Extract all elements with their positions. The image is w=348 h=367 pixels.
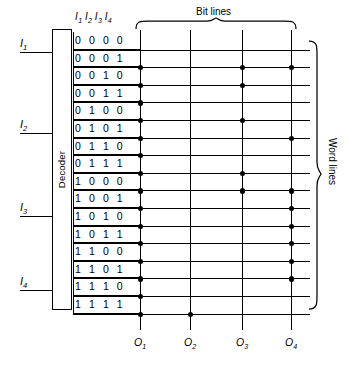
junction-dot <box>138 188 143 193</box>
junction-dot <box>289 65 294 70</box>
word-line <box>73 85 310 86</box>
word-lines-brace <box>308 40 322 310</box>
junction-dot <box>240 83 245 88</box>
junction-dot <box>289 188 294 193</box>
junction-dot <box>240 65 245 70</box>
decoder-input-label-1: I1 <box>20 37 27 52</box>
word-code-row: 0 0 0 1 <box>73 50 140 68</box>
output-label-3: O3 <box>236 336 248 350</box>
word-code-row: 1 0 0 1 <box>73 190 140 208</box>
junction-dot <box>138 312 143 317</box>
word-code-row: 0 1 1 0 <box>73 138 140 156</box>
junction-dot <box>138 153 143 158</box>
junction-dot <box>138 100 143 105</box>
word-line <box>73 278 310 279</box>
word-code-row: 0 0 0 0 <box>73 32 140 50</box>
junction-dot <box>138 206 143 211</box>
junction-dot <box>240 171 245 176</box>
word-line <box>73 67 310 68</box>
junction-dot <box>138 276 143 281</box>
junction-dot <box>188 312 193 317</box>
junction-dot <box>138 136 143 141</box>
word-code-value: 1 1 1 0 <box>75 279 125 294</box>
junction-dot <box>289 276 294 281</box>
bit-line-1 <box>140 30 141 330</box>
code-column-header: I1 I2 I3 I4 <box>75 11 112 24</box>
junction-dot <box>138 241 143 246</box>
decoder-input-label-3: I3 <box>20 201 27 216</box>
bit-lines-caption: Bit lines <box>196 6 231 17</box>
word-line <box>73 261 310 262</box>
word-code-value: 1 0 1 0 <box>75 209 125 224</box>
junction-dot <box>289 259 294 264</box>
decoder-label: Decoder <box>57 151 68 188</box>
word-code-value: 0 0 0 0 <box>75 33 125 48</box>
junction-dot <box>240 188 245 193</box>
word-line <box>73 226 310 227</box>
decoder-input-label-4: I4 <box>20 275 27 290</box>
word-code-row: 1 1 0 0 <box>73 243 140 261</box>
word-code-row: 1 0 1 0 <box>73 208 140 226</box>
word-line <box>73 190 310 191</box>
junction-dot <box>289 206 294 211</box>
word-line <box>73 155 310 156</box>
bit-line-2 <box>190 30 191 330</box>
decoder-block-label-wrap: Decoder <box>52 29 72 310</box>
word-code-row: 1 1 0 1 <box>73 261 140 279</box>
word-code-row: 0 1 0 0 <box>73 102 140 120</box>
word-code-row: 1 1 1 1 <box>73 296 140 314</box>
junction-dot <box>138 259 143 264</box>
word-code-row: 0 0 1 1 <box>73 85 140 103</box>
word-code-value: 1 1 0 0 <box>75 244 125 259</box>
output-label-4: O4 <box>285 336 297 350</box>
word-code-row: 0 0 1 0 <box>73 67 140 85</box>
word-code-value: 0 0 1 1 <box>75 86 125 101</box>
bit-line-4 <box>291 30 292 330</box>
word-code-row: 1 1 1 0 <box>73 278 140 296</box>
junction-dot <box>138 294 143 299</box>
word-line <box>73 208 310 209</box>
output-label-2: O2 <box>184 336 196 350</box>
word-code-value: 1 1 0 1 <box>75 262 125 277</box>
word-code-row: 1 0 0 0 <box>73 173 140 191</box>
rom-matrix-diagram: Decoder I1I2I3I4 I1 I2 I3 I4 0 0 0 00 0 … <box>0 0 348 367</box>
word-code-row: 0 1 1 1 <box>73 155 140 173</box>
junction-dot <box>138 83 143 88</box>
word-line <box>73 296 310 297</box>
word-code-row: 0 1 0 1 <box>73 120 140 138</box>
word-line <box>73 243 310 244</box>
word-code-value: 0 1 0 1 <box>75 121 125 136</box>
word-lines-caption: Word lines <box>327 138 338 185</box>
junction-dot <box>138 65 143 70</box>
junction-dot <box>289 136 294 141</box>
word-code-value: 1 0 0 0 <box>75 174 125 189</box>
word-line <box>73 120 310 121</box>
word-line <box>73 173 310 174</box>
word-code-value: 1 0 1 1 <box>75 227 125 242</box>
junction-dot <box>289 241 294 246</box>
word-code-value: 1 1 1 1 <box>75 297 125 312</box>
word-code-value: 0 0 1 0 <box>75 68 125 83</box>
word-code-value: 1 0 0 1 <box>75 191 125 206</box>
word-code-row: 1 0 1 1 <box>73 226 140 244</box>
bit-lines-brace <box>135 18 297 30</box>
bit-line-3 <box>242 30 243 330</box>
junction-dot <box>138 171 143 176</box>
word-line <box>73 138 310 139</box>
word-line <box>73 102 310 103</box>
word-code-value: 0 0 0 1 <box>75 51 125 66</box>
junction-dot <box>289 224 294 229</box>
decoder-input-label-2: I2 <box>20 118 27 133</box>
word-code-value: 0 1 0 0 <box>75 103 125 118</box>
junction-dot <box>240 118 245 123</box>
junction-dot <box>138 224 143 229</box>
word-code-value: 0 1 1 0 <box>75 139 125 154</box>
output-label-1: O1 <box>134 336 146 350</box>
word-line <box>73 50 310 51</box>
word-code-value: 0 1 1 1 <box>75 156 125 171</box>
junction-dot <box>138 118 143 123</box>
